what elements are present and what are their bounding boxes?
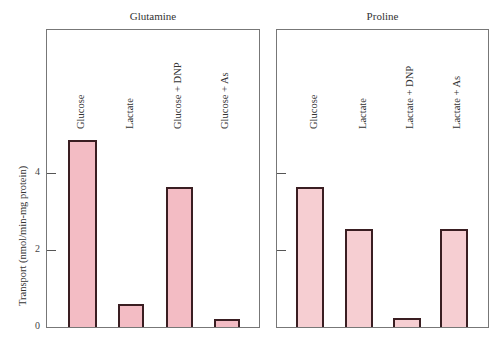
- category-label: Lactate + As: [451, 76, 462, 129]
- category-label: Glucose + As: [219, 72, 230, 129]
- bar-glutamine-glucose: [68, 140, 97, 327]
- bar-proline-lactate: [345, 229, 373, 327]
- category-label: Lactate: [357, 98, 368, 129]
- panel-title-proline: Proline: [276, 10, 489, 22]
- y-tick-label-2: 2: [26, 243, 40, 254]
- bar-glutamine-glucose-as: [214, 319, 240, 327]
- y-tick-4: [277, 173, 286, 174]
- panel-glutamine: Glucose Lactate Glucose + DNP Glucose + …: [46, 29, 260, 328]
- category-label: Glucose + DNP: [172, 62, 183, 129]
- bar-proline-glucose: [296, 187, 324, 327]
- y-tick-label-4: 4: [26, 166, 40, 177]
- bar-proline-lactate-as: [440, 229, 468, 327]
- category-label: Lactate + DNP: [404, 66, 415, 129]
- y-tick-2: [47, 250, 56, 251]
- category-label: Glucose: [308, 95, 319, 129]
- bar-glutamine-glucose-dnp: [166, 187, 193, 327]
- bar-glutamine-lactate: [118, 304, 144, 327]
- category-label: Lactate: [124, 98, 135, 129]
- bar-proline-lactate-dnp: [393, 318, 421, 327]
- panel-proline: Glucose Lactate Lactate + DNP Lactate + …: [276, 29, 489, 328]
- y-axis-label: Transport (nmol/min-mg protein): [17, 166, 28, 306]
- panel-title-glutamine: Glutamine: [46, 10, 260, 22]
- y-tick-label-0: 0: [26, 320, 40, 331]
- category-label: Glucose: [75, 95, 86, 129]
- y-tick-4: [47, 173, 56, 174]
- y-tick-2: [277, 250, 286, 251]
